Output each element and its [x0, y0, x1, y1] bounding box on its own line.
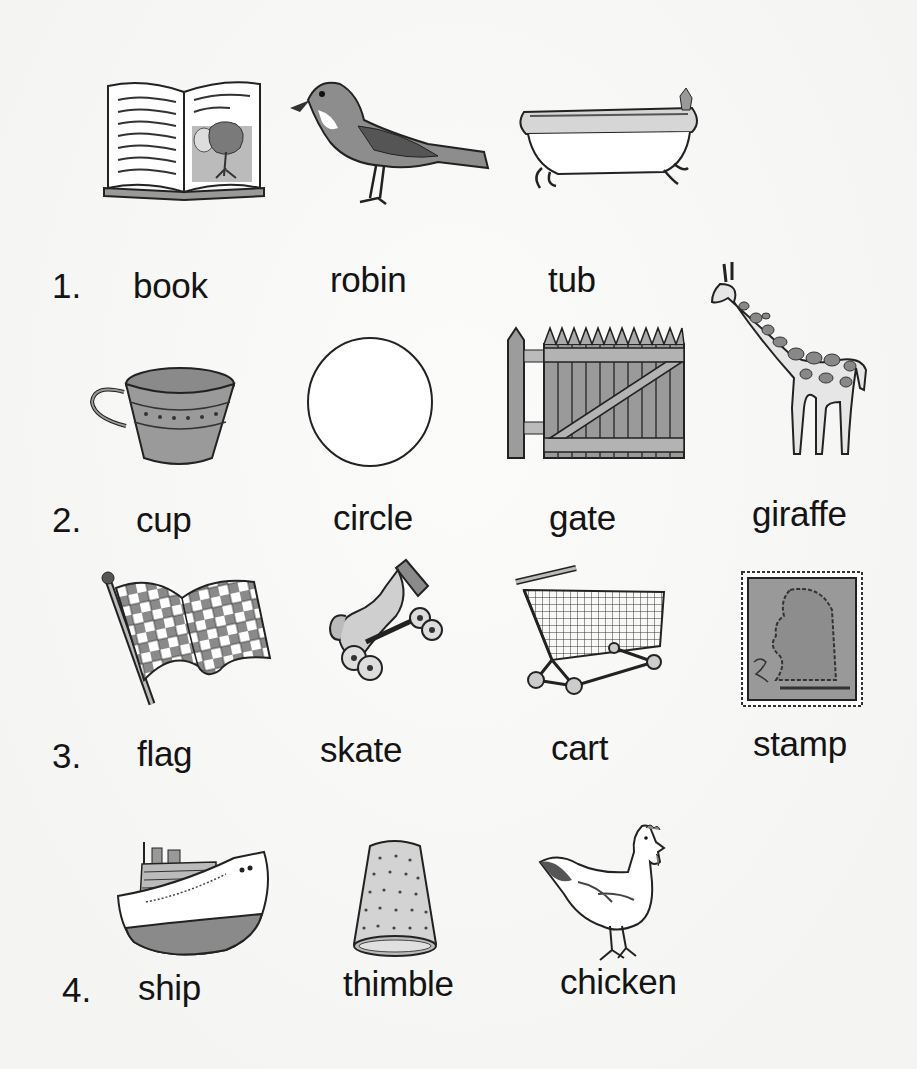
word-label-cup: cup [136, 500, 192, 540]
giraffe-icon [710, 258, 872, 460]
word-label-cart: cart [551, 728, 608, 768]
teacup-icon [88, 362, 238, 468]
word-label-chicken: chicken [560, 962, 677, 1002]
word-label-robin: robin [330, 260, 406, 300]
bathtub-icon [514, 88, 702, 196]
worksheet-page: 1. book robin tub [0, 0, 917, 1069]
word-label-skate: skate [320, 730, 402, 770]
word-label-thimble: thimble [343, 964, 454, 1004]
ship-icon [116, 838, 272, 960]
word-label-flag: flag [137, 734, 192, 774]
postage-stamp-icon [740, 570, 864, 708]
checkered-flag-icon [102, 570, 272, 706]
row-number-3: 3. [52, 736, 81, 776]
word-label-ship: ship [138, 968, 201, 1008]
row-number-1: 1. [52, 266, 81, 306]
circle-shape-icon [306, 336, 434, 468]
chicken-icon [538, 822, 670, 966]
row-number-2: 2. [52, 500, 81, 540]
robin-bird-icon [288, 70, 494, 210]
word-label-circle: circle [333, 498, 413, 538]
wooden-gate-icon [506, 326, 686, 460]
shopping-cart-icon [514, 562, 666, 694]
thimble-icon [350, 838, 440, 960]
open-book-icon [100, 78, 268, 206]
word-label-gate: gate [549, 498, 616, 538]
row-number-4: 4. [62, 970, 91, 1010]
word-label-book: book [133, 266, 208, 306]
word-label-stamp: stamp [753, 724, 847, 764]
word-label-tub: tub [548, 260, 596, 300]
roller-skate-icon [326, 556, 446, 690]
word-label-giraffe: giraffe [752, 494, 847, 534]
